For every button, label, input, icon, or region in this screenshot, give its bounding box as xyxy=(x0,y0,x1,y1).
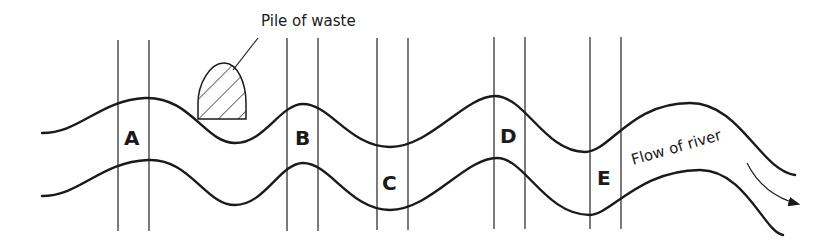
site-label-e: E xyxy=(597,166,611,190)
flow-arrow-icon xyxy=(747,163,798,204)
waste-pile-pointer xyxy=(233,38,258,70)
river-diagram: Pile of waste A B C D E Flow of river xyxy=(0,0,830,246)
site-label-d: D xyxy=(500,124,517,148)
site-label-c: C xyxy=(382,171,397,195)
waste-pile-shape xyxy=(198,63,246,119)
waste-pile-label: Pile of waste xyxy=(261,12,356,30)
flow-label: Flow of river xyxy=(629,126,724,169)
waste-pile xyxy=(198,38,258,119)
river-lower-bank xyxy=(42,158,783,235)
site-label-a: A xyxy=(124,126,140,150)
site-label-b: B xyxy=(295,126,310,150)
river-banks xyxy=(42,96,795,235)
